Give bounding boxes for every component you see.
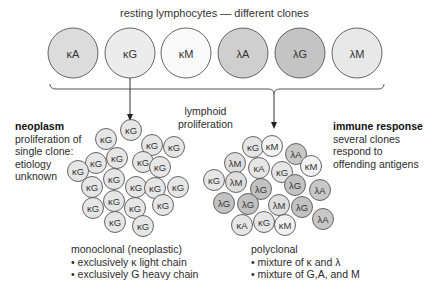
polyclonal-bullet-2: • mixture of G,A, and M — [251, 268, 360, 281]
monoclonal-cell: κG — [168, 177, 189, 198]
cell-label: κM — [179, 48, 194, 60]
resting-cell: λG — [275, 28, 325, 78]
monoclonal-cell: κG — [133, 216, 154, 237]
cell-label: κG — [123, 48, 137, 60]
cell-label: κG — [111, 153, 123, 164]
polyclonal-cluster: κGκMλAλMκAκGκMκGλMλGλGλAλGλGλMλGκAκGκMλA — [204, 136, 334, 236]
monoclonal-cell: κG — [164, 137, 185, 158]
polyclonal-cell: κM — [301, 156, 322, 177]
cell-label: κM — [266, 141, 279, 152]
cell-label: κG — [247, 142, 259, 153]
polyclonal-cell: λG — [285, 175, 306, 196]
cell-label: κG — [137, 221, 149, 232]
right-line-1: several clones — [333, 133, 423, 146]
center-label: lymphoid proliferation — [178, 105, 233, 130]
monoclonal-cell: κG — [104, 169, 125, 190]
polyclonal-cell: κG — [243, 137, 264, 158]
cell-label: λA — [290, 149, 302, 160]
monoclonal-cell: κG — [126, 177, 147, 198]
monoclonal-cell: κG — [83, 198, 104, 219]
cell-label: λA — [317, 214, 329, 225]
cell-label: λG — [296, 202, 308, 213]
cell-label: κG — [137, 157, 149, 168]
cell-label: κM — [305, 161, 318, 172]
cell-label: λM — [350, 48, 365, 60]
cell-label: κA — [67, 48, 81, 60]
immune-response-heading: immune response — [333, 120, 423, 133]
monoclonal-cell: κG — [121, 120, 142, 141]
cell-label: κG — [86, 182, 98, 193]
polyclonal-cell: λG — [292, 197, 313, 218]
resting-cell: κG — [105, 28, 155, 78]
cell-label: κG — [100, 134, 112, 145]
polyclonal-cell: κG — [254, 212, 275, 233]
cell-label: κG — [276, 167, 288, 178]
resting-cell: κA — [48, 28, 98, 78]
left-line-2: single clone: — [15, 145, 82, 158]
cell-label: κG — [172, 182, 184, 193]
cell-label: κG — [129, 203, 141, 214]
cell-label: κG — [154, 162, 166, 173]
polyclonal-cell: λA — [313, 209, 334, 230]
grouping-brace — [50, 84, 384, 94]
resting-cell: λM — [332, 28, 382, 78]
cell-label: λM — [229, 158, 242, 169]
monoclonal-cell: κG — [104, 191, 125, 212]
monoclonal-cluster: κGκGκGκGκGκGκGκGκGκGκGκGκGκGκGκGκGκGκGκG — [68, 120, 189, 237]
cell-label: λG — [242, 199, 254, 210]
cell-label: κG — [109, 217, 121, 228]
monoclonal-caption-title: monoclonal (neoplastic) — [71, 243, 198, 256]
cell-label: κG — [168, 142, 180, 153]
cell-label: κG — [130, 182, 142, 193]
left-line-3: etiology — [15, 158, 82, 171]
polyclonal-cell: λM — [226, 172, 247, 193]
polyclonal-cell: λG — [214, 193, 235, 214]
monoclonal-cell: κG — [96, 129, 117, 150]
monoclonal-cell: κG — [150, 157, 171, 178]
diagram-title: resting lymphocytes — different clones — [120, 7, 309, 20]
resting-cell: κM — [161, 28, 211, 78]
cell-label: κG — [149, 183, 161, 194]
cell-label: κG — [258, 217, 270, 228]
cell-label: κA — [236, 220, 248, 231]
cell-label: λG — [255, 184, 267, 195]
cell-label: κG — [108, 196, 120, 207]
left-panel-text: neoplasm proliferation of single clone: … — [15, 120, 82, 183]
polyclonal-cell: κA — [232, 215, 253, 236]
cell-label: λM — [230, 177, 243, 188]
diagram-canvas: κAκGκMλAλGλM κGκGκGκGκGκGκGκGκGκGκGκGκGκ… — [0, 0, 434, 289]
polyclonal-cell: κM — [275, 215, 296, 236]
monoclonal-cell: κG — [107, 148, 128, 169]
right-line-3: offending antigens — [333, 158, 423, 171]
polyclonal-cell: λM — [269, 195, 290, 216]
resting-cells-group: κAκGκMλAλGλM — [48, 28, 382, 78]
polyclonal-bullet-1: • mixture of κ and λ — [251, 256, 360, 269]
monoclonal-cell: κG — [153, 195, 174, 216]
cell-label: κG — [208, 175, 220, 186]
cell-label: κG — [90, 158, 102, 169]
polyclonal-cell: λA — [310, 180, 331, 201]
cell-label: κG — [146, 140, 158, 151]
monoclonal-cell: κG — [105, 212, 126, 233]
monoclonal-bullet-1: • exclusively κ light chain — [71, 256, 198, 269]
left-line-4: unknown — [15, 170, 82, 183]
left-line-1: proliferation of — [15, 133, 82, 146]
polyclonal-caption-title: polyclonal — [251, 243, 360, 256]
cell-label: λM — [273, 200, 286, 211]
cell-label: λG — [293, 48, 307, 60]
right-panel-text: immune response several clones respond t… — [333, 120, 423, 170]
polyclonal-cell: λM — [225, 153, 246, 174]
center-label-line-2: proliferation — [178, 118, 233, 131]
polyclonal-cell: λG — [238, 194, 259, 215]
polyclonal-cell: κM — [262, 136, 283, 157]
monoclonal-cell: κG — [82, 177, 103, 198]
cell-label: λG — [218, 198, 230, 209]
cell-label: κG — [125, 125, 137, 136]
cell-label: κG — [157, 200, 169, 211]
polyclonal-cell: κG — [204, 170, 225, 191]
monoclonal-bullet-2: • exclusively G heavy chain — [71, 268, 198, 281]
neoplasm-heading: neoplasm — [15, 120, 82, 133]
arrowhead-icon — [271, 122, 277, 129]
cell-label: κM — [279, 220, 292, 231]
cell-label: κG — [108, 174, 120, 185]
